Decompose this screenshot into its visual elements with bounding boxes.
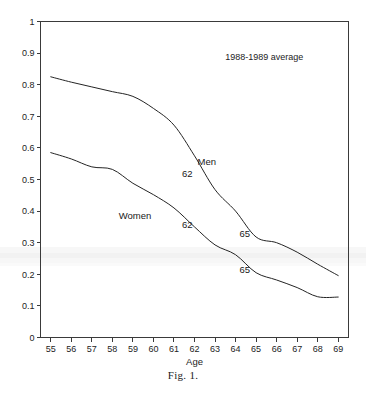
x-tick-label: 56 [66, 344, 76, 354]
x-tick-label: 59 [128, 344, 138, 354]
y-tick-label: 0 [29, 333, 34, 343]
y-tick-label: 0.5 [22, 175, 35, 185]
y-tick-label: 0.3 [22, 238, 35, 248]
x-tick-label: 63 [210, 344, 220, 354]
x-tick-label: 66 [272, 344, 282, 354]
annotation-65-men: 65 [240, 228, 251, 239]
x-tick-label: 65 [251, 344, 261, 354]
series-label-women: Women [119, 210, 152, 221]
x-tick-label: 67 [292, 344, 302, 354]
figure-caption: Fig. 1. [168, 369, 199, 381]
x-tick-label: 60 [148, 344, 158, 354]
figure-container: 00.10.20.30.40.50.60.70.80.91 5556575859… [0, 0, 366, 397]
annotation-62-women: 62 [182, 219, 193, 230]
x-tick-label: 68 [313, 344, 323, 354]
annotation-65-women: 65 [240, 264, 251, 275]
x-tick-label: 57 [87, 344, 97, 354]
x-tick-label: 61 [169, 344, 179, 354]
x-tick-label: 55 [46, 344, 56, 354]
scan-artifact-bands [0, 247, 366, 266]
series-label-men: Men [198, 156, 216, 167]
y-tick-label: 0.1 [22, 301, 35, 311]
y-tick-label: 0.9 [22, 48, 35, 58]
x-tick-label: 64 [231, 344, 241, 354]
x-tick-label: 62 [189, 344, 199, 354]
x-axis-title: Age [186, 356, 203, 367]
y-tick-label: 0.6 [22, 143, 35, 153]
y-tick-label: 0.8 [22, 80, 35, 90]
y-tick-label: 0.4 [22, 206, 35, 216]
y-tick-label: 0.2 [22, 270, 35, 280]
annotation-62-men: 62 [182, 168, 193, 179]
line-chart: 00.10.20.30.40.50.60.70.80.91 5556575859… [0, 0, 366, 397]
x-tick-label: 58 [107, 344, 117, 354]
x-tick-label: 69 [333, 344, 343, 354]
y-tick-label: 1 [29, 17, 34, 27]
chart-note: 1988-1989 average [225, 52, 303, 62]
y-tick-label: 0.7 [22, 112, 35, 122]
